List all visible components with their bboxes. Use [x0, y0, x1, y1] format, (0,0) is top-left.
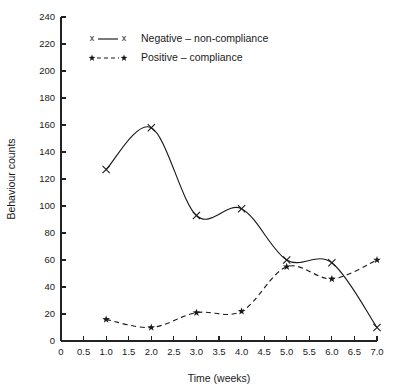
x-tick-label: 4.0: [235, 346, 248, 357]
x-tick-label: 5.0: [280, 346, 293, 357]
y-tick-label: 200: [39, 65, 55, 76]
y-tick-label: 240: [39, 11, 55, 22]
y-tick-label: 20: [44, 308, 55, 319]
y-tick-label: 160: [39, 119, 55, 130]
line-chart: 020406080100120140160180200220240 Behavi…: [0, 0, 393, 390]
x-tick-label: 1.5: [122, 346, 135, 357]
x-tick-label: 2.0: [145, 346, 158, 357]
x-tick-label: 3.5: [212, 346, 225, 357]
x-tick-label: 5.5: [303, 346, 316, 357]
x-tick-label: 1.0: [100, 346, 113, 357]
y-tick-label: 120: [39, 173, 55, 184]
y-tick-label: 40: [44, 281, 55, 292]
x-tick-label: 6.5: [348, 346, 361, 357]
y-tick-label: 140: [39, 146, 55, 157]
y-tick-label: 60: [44, 254, 55, 265]
y-tick-label: 180: [39, 92, 55, 103]
x-tick-label: 0.5: [77, 346, 90, 357]
legend-label: Positive – compliance: [141, 51, 243, 63]
y-tick-label: 100: [39, 200, 55, 211]
x-tick-label: 0: [58, 346, 63, 357]
x-tick-label: 6.0: [325, 346, 338, 357]
y-tick-label: 80: [44, 227, 55, 238]
y-tick-label: 0: [50, 335, 55, 346]
x-tick-label: 7.0: [370, 346, 383, 357]
x-tick-label: 2.5: [167, 346, 180, 357]
chart-container: 020406080100120140160180200220240 Behavi…: [0, 0, 393, 390]
legend-marker-x-icon: x: [122, 33, 127, 43]
legend-marker-x-icon: x: [90, 33, 95, 43]
x-tick-label: 4.5: [258, 346, 271, 357]
x-tick-label: 3.0: [190, 346, 203, 357]
y-axis-title: Behaviour counts: [5, 138, 17, 219]
x-axis-title: Time (weeks): [188, 372, 251, 384]
y-tick-label: 220: [39, 38, 55, 49]
legend-label: Negative – non-compliance: [141, 32, 268, 44]
